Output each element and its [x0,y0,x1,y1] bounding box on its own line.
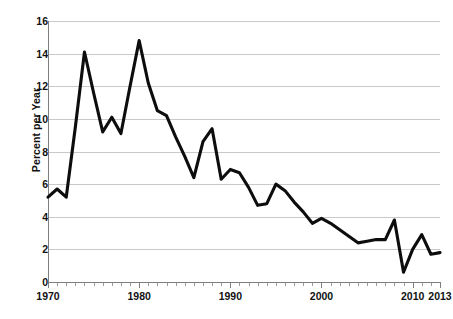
x-tick-label: 2013 [428,291,451,302]
x-tick-label: 1980 [127,291,150,302]
x-tick-label: 2000 [310,291,333,302]
x-axis-tick-labels: 197019801990200020102013 [0,0,453,319]
x-tick-label: 1970 [36,291,59,302]
x-tick-label: 1990 [219,291,242,302]
x-tick-label: 2010 [401,291,424,302]
line-chart: Percent per Year 0246810121416 197019801… [0,0,453,319]
